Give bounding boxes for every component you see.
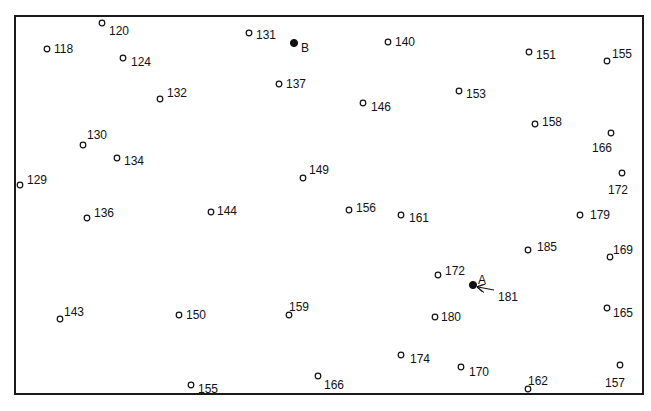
marked-point-label: A bbox=[478, 273, 486, 287]
data-point: 143 bbox=[57, 305, 84, 322]
data-point: 166 bbox=[592, 130, 614, 155]
point-value-label: 159 bbox=[289, 300, 309, 314]
point-marker-icon bbox=[157, 96, 163, 102]
data-point: 180 bbox=[432, 310, 461, 324]
point-value-label: 157 bbox=[605, 376, 625, 390]
point-marker-icon bbox=[188, 382, 194, 388]
data-point: 159 bbox=[286, 300, 309, 318]
point-value-label: 179 bbox=[590, 208, 610, 222]
point-value-label: 143 bbox=[64, 305, 84, 319]
point-marker-icon bbox=[619, 170, 625, 176]
point-marker-icon bbox=[84, 215, 90, 221]
point-marker-icon bbox=[246, 30, 252, 36]
data-point: 172 bbox=[608, 170, 628, 197]
point-marker-icon bbox=[398, 212, 404, 218]
point-marker-icon bbox=[17, 182, 23, 188]
point-value-label: 146 bbox=[371, 100, 391, 114]
point-value-label: 174 bbox=[410, 352, 430, 366]
point-value-label: 130 bbox=[87, 128, 107, 142]
data-point: 131 bbox=[246, 28, 276, 42]
point-marker-icon bbox=[120, 55, 126, 61]
point-value-label: 166 bbox=[324, 378, 344, 392]
point-marker-icon bbox=[458, 364, 464, 370]
point-marker-icon bbox=[57, 316, 63, 322]
marked-point-b: B bbox=[290, 39, 309, 55]
point-marker-icon bbox=[385, 39, 391, 45]
data-point: 161 bbox=[398, 211, 429, 225]
point-value-label: 156 bbox=[356, 201, 376, 215]
data-point: 169 bbox=[607, 243, 633, 260]
point-marker-icon bbox=[346, 207, 352, 213]
data-point: 146 bbox=[360, 100, 391, 114]
data-point: 120 bbox=[99, 20, 129, 38]
data-point: 155 bbox=[604, 47, 632, 64]
marked-point-label: B bbox=[301, 41, 309, 55]
marked-point-value: 181 bbox=[498, 290, 518, 304]
point-value-label: 158 bbox=[542, 115, 562, 129]
point-marker-icon bbox=[604, 58, 610, 64]
point-value-label: 131 bbox=[256, 28, 276, 42]
point-marker-icon bbox=[432, 314, 438, 320]
point-value-label: 169 bbox=[613, 243, 633, 257]
filled-point-icon bbox=[469, 281, 476, 288]
point-marker-icon bbox=[456, 88, 462, 94]
point-marker-icon bbox=[360, 100, 366, 106]
point-value-label: 172 bbox=[445, 264, 465, 278]
point-value-label: 132 bbox=[167, 86, 187, 100]
point-value-label: 165 bbox=[613, 306, 633, 320]
point-marker-icon bbox=[526, 49, 532, 55]
data-point: 156 bbox=[346, 201, 376, 215]
point-marker-icon bbox=[99, 20, 105, 26]
data-point: 134 bbox=[114, 154, 144, 168]
data-point: 151 bbox=[526, 48, 556, 62]
point-value-label: 170 bbox=[469, 365, 489, 379]
point-marker-icon bbox=[80, 142, 86, 148]
point-marker-icon bbox=[114, 155, 120, 161]
point-marker-icon bbox=[608, 130, 614, 136]
point-value-label: 180 bbox=[441, 310, 461, 324]
filled-point-icon bbox=[290, 39, 297, 46]
data-point: 162 bbox=[525, 374, 548, 392]
data-point: 165 bbox=[604, 305, 633, 320]
point-marker-icon bbox=[176, 312, 182, 318]
data-point: 157 bbox=[605, 362, 625, 390]
data-point: 140 bbox=[385, 35, 415, 49]
point-value-label: 129 bbox=[27, 173, 47, 187]
point-marker-icon bbox=[398, 352, 404, 358]
data-point: 149 bbox=[300, 163, 329, 181]
point-plot: 1201181241311401511551321371461531581661… bbox=[0, 0, 651, 411]
point-value-label: 162 bbox=[528, 374, 548, 388]
point-value-label: 166 bbox=[592, 141, 612, 155]
data-point: 174 bbox=[398, 352, 430, 366]
data-point: 132 bbox=[157, 86, 187, 102]
data-point: 130 bbox=[80, 128, 107, 148]
data-point: 136 bbox=[84, 206, 114, 221]
point-value-label: 144 bbox=[217, 204, 237, 218]
data-point: 153 bbox=[456, 87, 486, 101]
point-value-label: 120 bbox=[109, 24, 129, 38]
point-marker-icon bbox=[435, 272, 441, 278]
data-point: 185 bbox=[525, 240, 557, 254]
data-point: 124 bbox=[120, 55, 151, 69]
point-marker-icon bbox=[577, 212, 583, 218]
point-value-label: 151 bbox=[536, 48, 556, 62]
point-marker-icon bbox=[617, 362, 623, 368]
point-marker-icon bbox=[208, 209, 214, 215]
point-marker-icon bbox=[525, 247, 531, 253]
point-marker-icon bbox=[276, 81, 282, 87]
data-point: 172 bbox=[435, 264, 465, 278]
point-marker-icon bbox=[300, 175, 306, 181]
data-point: 166 bbox=[315, 373, 344, 392]
point-value-label: 140 bbox=[395, 35, 415, 49]
point-value-label: 172 bbox=[608, 183, 628, 197]
point-value-label: 161 bbox=[409, 211, 429, 225]
point-value-label: 118 bbox=[54, 42, 73, 56]
data-point: 155 bbox=[188, 382, 218, 396]
point-marker-icon bbox=[44, 46, 50, 52]
data-point: 158 bbox=[532, 115, 562, 129]
marked-point-a: A181 bbox=[469, 273, 518, 304]
point-value-label: 150 bbox=[186, 308, 206, 322]
point-value-label: 149 bbox=[309, 163, 329, 177]
data-point: 129 bbox=[17, 173, 47, 188]
data-point: 150 bbox=[176, 308, 206, 322]
